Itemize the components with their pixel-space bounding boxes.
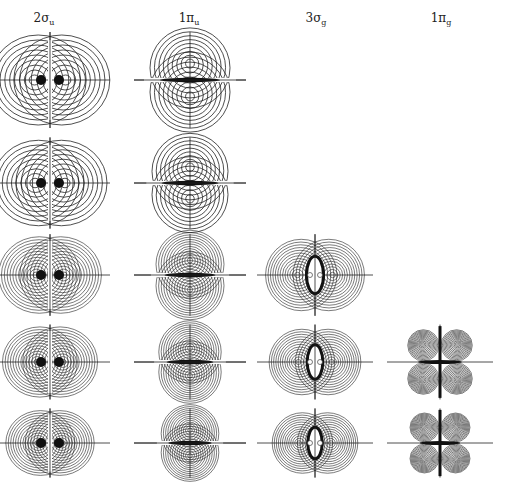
contour-panel-pi-u-row-1 bbox=[134, 28, 246, 132]
contour-panel-sigma-g-row-5 bbox=[257, 408, 373, 477]
contour-panel-sigma-u-row-2 bbox=[0, 137, 110, 228]
nucleus-node bbox=[36, 270, 46, 280]
nucleus-node bbox=[36, 357, 46, 367]
nucleus-node bbox=[54, 178, 64, 188]
nucleus-node bbox=[36, 438, 46, 448]
nucleus-node bbox=[54, 270, 64, 280]
contour-panel-sigma-u-row-3 bbox=[0, 234, 110, 316]
nucleus-node bbox=[36, 75, 46, 85]
nucleus-node bbox=[54, 357, 64, 367]
orbital-contour-grid bbox=[0, 0, 507, 492]
contour-panel-pi-u-row-4 bbox=[134, 321, 246, 404]
contour-panel-pi-u-row-5 bbox=[134, 405, 246, 482]
nucleus-node bbox=[36, 178, 46, 188]
contour-panel-sigma-u-row-5 bbox=[0, 408, 110, 477]
contour-panel-sigma-u-row-1 bbox=[0, 32, 110, 128]
contour-panel-pi-u-row-3 bbox=[134, 230, 246, 319]
contour-panel-sigma-u-row-4 bbox=[0, 325, 110, 400]
nucleus-node bbox=[54, 75, 64, 85]
contour-panel-sigma-g-row-4 bbox=[257, 325, 373, 400]
contour-panel-pi-g-row-5 bbox=[387, 408, 493, 477]
contour-panel-sigma-g-row-3 bbox=[257, 234, 373, 316]
contour-panel-pi-g-row-4 bbox=[387, 325, 493, 400]
nucleus-node bbox=[54, 438, 64, 448]
contour-panel-pi-u-row-2 bbox=[134, 133, 246, 232]
